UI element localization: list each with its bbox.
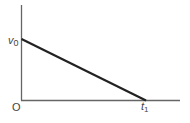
chart: v0 O t1 bbox=[0, 0, 190, 123]
origin-label: O bbox=[12, 101, 21, 113]
x-intercept-label: t1 bbox=[141, 100, 149, 114]
y-intercept-label: v0 bbox=[8, 34, 19, 48]
data-line bbox=[22, 39, 147, 101]
